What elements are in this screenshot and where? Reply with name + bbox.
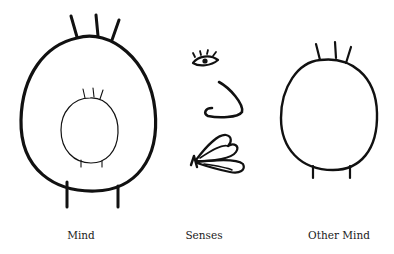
other-mind-spike: [316, 44, 320, 60]
other-mind-oval: [281, 59, 377, 170]
mind-outer-oval: [21, 36, 156, 191]
mind-figure: [21, 15, 156, 207]
other-mind-spike: [335, 42, 336, 58]
mind-label: Mind: [67, 229, 95, 241]
eye-icon: [193, 50, 218, 65]
other-mind-spike: [346, 47, 351, 63]
inner-spike: [93, 88, 94, 97]
mind-spike: [96, 15, 98, 36]
nose-icon: [205, 82, 242, 117]
mind-spike: [112, 20, 119, 40]
inner-spike: [100, 90, 103, 99]
senses-label: Senses: [185, 229, 222, 241]
inner-spike: [83, 89, 85, 98]
other-mind-label: Other Mind: [308, 229, 370, 241]
other-mind-figure: [281, 42, 377, 178]
mind-spike: [71, 16, 77, 37]
senses-group: [191, 50, 244, 173]
mind-inner-oval: [61, 98, 118, 163]
diagram-canvas: [0, 0, 394, 254]
hand-icon: [191, 135, 244, 173]
